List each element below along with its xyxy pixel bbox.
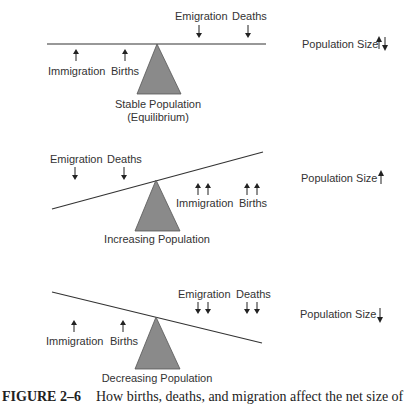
up-arrow-icon — [73, 49, 79, 61]
down-arrow-icon — [196, 25, 202, 38]
panel-decreasing: Emigration Deaths Immigration Births Dec… — [46, 288, 383, 384]
force-label-emigration: Emigration — [50, 153, 103, 165]
population-size-label: Population Size — [302, 38, 378, 50]
figure-caption: FIGURE 2–6 How births, deaths, and migra… — [2, 389, 404, 404]
fulcrum-triangle — [135, 180, 180, 231]
panel-increasing: Emigration Deaths Immigration Births Inc… — [50, 152, 384, 245]
panel-title: Decreasing Population — [102, 372, 213, 384]
force-label-births: Births — [239, 197, 268, 209]
force-label-immigration: Immigration — [176, 197, 233, 209]
down-arrow-icon — [121, 167, 127, 180]
up-arrow-icon — [122, 49, 128, 61]
population-size-label: Population Size — [300, 308, 376, 320]
population-balance-figure: Emigration Deaths Immigration Births Sta… — [0, 0, 417, 408]
force-label-deaths: Deaths — [232, 10, 267, 22]
panel-title: Stable Population — [115, 98, 201, 110]
double-up-arrow-icon — [244, 183, 260, 195]
down-arrow-icon — [72, 167, 78, 180]
double-up-arrow-icon — [195, 183, 211, 195]
figure-number: FIGURE 2–6 — [2, 389, 81, 404]
panel-title: Increasing Population — [104, 233, 210, 245]
up-arrow-icon — [378, 170, 384, 184]
caption-text: How births, deaths, and migration affect… — [96, 389, 404, 404]
down-arrow-icon — [245, 25, 251, 38]
up-arrow-icon — [120, 320, 126, 332]
panel-subtitle: (Equilibrium) — [127, 111, 189, 123]
force-label-immigration: Immigration — [48, 65, 105, 77]
down-arrow-icon — [377, 308, 383, 323]
force-label-emigration: Emigration — [175, 10, 228, 22]
fulcrum-triangle — [137, 44, 181, 94]
up-arrow-icon — [71, 320, 77, 332]
force-label-deaths: Deaths — [107, 153, 142, 165]
double-down-arrow-icon — [244, 302, 260, 314]
population-size-label: Population Size — [301, 172, 377, 184]
force-label-immigration: Immigration — [46, 335, 103, 347]
force-label-births: Births — [111, 65, 140, 77]
force-label-births: Births — [110, 335, 139, 347]
force-label-deaths: Deaths — [236, 288, 271, 300]
force-label-emigration: Emigration — [178, 288, 231, 300]
double-down-arrow-icon — [195, 302, 211, 314]
panel-stable: Emigration Deaths Immigration Births Sta… — [47, 10, 388, 123]
fulcrum-triangle — [135, 317, 180, 369]
